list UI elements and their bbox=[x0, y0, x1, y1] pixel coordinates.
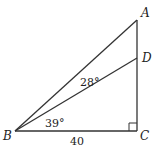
triangle-diagram: A D B C 28° 39° 40 bbox=[0, 0, 159, 146]
vertex-label-d: D bbox=[141, 51, 152, 65]
angle-label-28: 28° bbox=[80, 76, 100, 89]
segment-ba bbox=[15, 20, 137, 131]
vertex-label-c: C bbox=[140, 129, 149, 143]
segment-bd bbox=[15, 58, 137, 131]
angle-label-39: 39° bbox=[45, 117, 65, 130]
right-angle-marker bbox=[129, 123, 137, 131]
vertex-label-b: B bbox=[2, 129, 12, 143]
vertex-label-a: A bbox=[140, 6, 150, 20]
side-label-bc: 40 bbox=[70, 135, 84, 146]
